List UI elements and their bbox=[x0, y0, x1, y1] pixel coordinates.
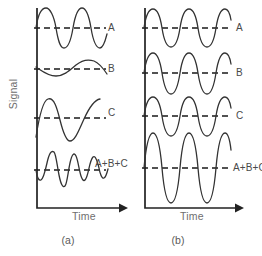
x-axis-arrowhead-a bbox=[119, 204, 128, 213]
axis-lines-b bbox=[145, 8, 236, 208]
wave-label-b-a: A bbox=[236, 22, 243, 33]
wave-label-a-b: B bbox=[108, 63, 115, 74]
trace-a-wave-b bbox=[36, 60, 107, 76]
wave-label-b-sum: A+B+C bbox=[233, 162, 262, 173]
panel-caption-b: (b) bbox=[158, 234, 198, 246]
panel-a-incoherent: Signal A B C A+B+C Time (a) bbox=[0, 0, 131, 256]
x-axis-arrowhead-b bbox=[235, 204, 244, 213]
panel-caption-a: (a) bbox=[48, 234, 88, 246]
wave-label-a-sum: A+B+C bbox=[95, 158, 128, 169]
wave-label-a-a: A bbox=[108, 22, 115, 33]
trace-a-wave-sum bbox=[36, 151, 108, 186]
panel-b-coherent: A B C A+B+C Time (b) bbox=[131, 0, 262, 256]
trace-a-wave-c bbox=[36, 99, 100, 141]
wave-label-a-c: C bbox=[108, 107, 115, 118]
wave-superposition-figure: Signal A B C A+B+C Time (a) bbox=[0, 0, 262, 256]
x-axis-label-b: Time bbox=[180, 210, 204, 222]
wave-label-b-b: B bbox=[236, 67, 243, 78]
wave-label-b-c: C bbox=[236, 110, 243, 121]
x-axis-label-a: Time bbox=[72, 210, 96, 222]
